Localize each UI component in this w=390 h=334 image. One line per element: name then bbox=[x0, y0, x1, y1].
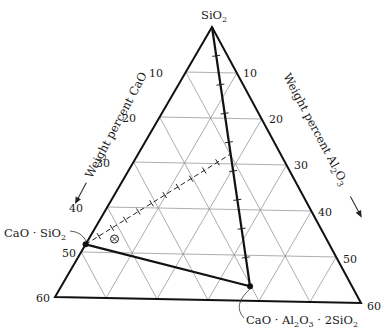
grid-line bbox=[310, 257, 336, 302]
apex-label-sio2: SiO2 bbox=[201, 8, 227, 24]
left-tick: 10 bbox=[149, 67, 163, 80]
leader-cao-sio2 bbox=[70, 231, 86, 241]
right-tick: 30 bbox=[294, 159, 308, 172]
grid-line bbox=[81, 252, 106, 298]
left-tick: 50 bbox=[62, 247, 76, 260]
right-tick: 10 bbox=[243, 67, 257, 80]
join-sio2-anorthite bbox=[212, 27, 250, 286]
tick-mark bbox=[189, 176, 193, 182]
arrow-down-right-icon bbox=[356, 210, 365, 219]
grid-line bbox=[186, 72, 237, 73]
tick-mark bbox=[136, 209, 140, 215]
label-cao-sio2: CaO · SiO2 bbox=[4, 226, 66, 242]
left-tick: 60 bbox=[36, 292, 50, 305]
svg-text:Weight percent CaO: Weight percent CaO bbox=[82, 70, 150, 181]
left-axis-ticks: 10 20 30 40 50 60 bbox=[36, 67, 163, 305]
ternary-diagram: SiO2 10 20 30 40 50 60 10 20 30 40 50 60… bbox=[0, 0, 390, 334]
tick-mark bbox=[97, 233, 101, 239]
grid-line bbox=[134, 162, 287, 165]
tick-mark bbox=[238, 228, 246, 229]
tick-mark bbox=[225, 142, 233, 143]
point-anorthite bbox=[247, 283, 253, 289]
tick-mark bbox=[216, 159, 220, 165]
right-tick: 50 bbox=[343, 253, 357, 266]
tick-mark bbox=[212, 55, 220, 56]
tick-mark bbox=[233, 199, 241, 200]
arrow-line bbox=[77, 183, 86, 201]
right-axis-ticks: 10 20 30 40 50 60 bbox=[243, 67, 381, 313]
tick-mark bbox=[176, 184, 180, 190]
right-tick: 20 bbox=[269, 113, 283, 126]
right-tick: 40 bbox=[318, 206, 332, 219]
tick-mark bbox=[202, 167, 206, 173]
left-tick: 40 bbox=[69, 202, 83, 215]
right-tick: 60 bbox=[367, 300, 381, 313]
tick-mark bbox=[221, 113, 229, 114]
tick-mark bbox=[242, 257, 250, 258]
tick-mark bbox=[150, 200, 154, 206]
left-axis-title: Weight percent CaO bbox=[68, 70, 150, 207]
label-anorthite: CaO · Al2O3 · 2SiO2 bbox=[246, 313, 358, 329]
tick-mark bbox=[216, 84, 224, 85]
right-axis-title: Weight percent Al2O3 bbox=[279, 71, 369, 222]
tick-mark bbox=[110, 225, 114, 231]
tick-mark bbox=[123, 217, 127, 223]
tick-mark bbox=[229, 170, 237, 171]
